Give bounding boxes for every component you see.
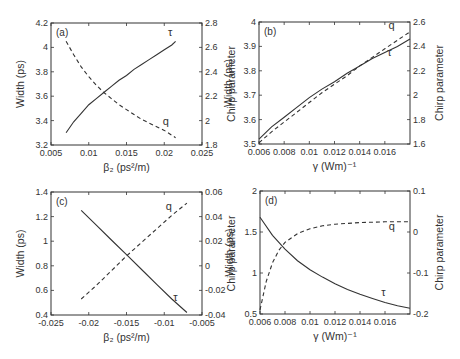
curve-label-tau: τ bbox=[168, 26, 173, 38]
y2-tick-label: 2.4 bbox=[205, 67, 218, 77]
x-tick-label: -0.015 bbox=[114, 318, 140, 328]
y-tick-label: 4 bbox=[43, 42, 48, 52]
y2-tick-label: 2.2 bbox=[205, 91, 218, 101]
y-tick-label: 1.4 bbox=[35, 187, 48, 197]
y-axis-label: Width (ps) bbox=[223, 229, 235, 277]
curve-label-q: q bbox=[389, 220, 395, 232]
axes-frame bbox=[259, 22, 410, 144]
x-tick-label: -0.02 bbox=[78, 318, 99, 328]
y-axis-label: Width (ps) bbox=[14, 230, 26, 278]
y2-tick-label: -0.2 bbox=[413, 309, 429, 319]
chirp-curve-q bbox=[66, 41, 176, 137]
y-tick-label: 3.8 bbox=[35, 67, 48, 77]
figure: 0.0050.010.0150.020.0253.23.43.63.844.21… bbox=[0, 0, 460, 359]
y-tick-label: 3.9 bbox=[243, 41, 256, 51]
y-tick-label: 3.7 bbox=[243, 90, 256, 100]
x-tick-label: 0.008 bbox=[274, 317, 297, 327]
x-tick-label: 0.012 bbox=[324, 317, 347, 327]
y-tick-label: 3.6 bbox=[243, 115, 256, 125]
chart-panel-c: -0.025-0.02-0.015-0.01-0.0050.40.60.811.… bbox=[14, 187, 237, 343]
x-tick-label: 0.015 bbox=[115, 148, 138, 158]
y2-tick-label: 2.4 bbox=[413, 41, 426, 51]
y2-tick-label: 1.8 bbox=[413, 115, 426, 125]
x-axis-label: β₂ (ps²/m) bbox=[103, 331, 149, 343]
x-tick-label: 0.012 bbox=[323, 147, 346, 157]
x-axis-label: γ (Wm)⁻¹ bbox=[313, 330, 357, 342]
chart-panel-d: 0.0060.0080.010.0120.0140.0160.511.52-0.… bbox=[223, 186, 445, 342]
y-tick-label: 1 bbox=[252, 268, 257, 278]
y2-axis-label: Chirp parameter bbox=[433, 45, 445, 121]
panel-label: (d) bbox=[265, 195, 277, 206]
x-tick-label: 0.01 bbox=[301, 317, 319, 327]
y2-tick-label: -0.04 bbox=[205, 310, 226, 320]
panel-label: (c) bbox=[56, 196, 68, 207]
y-axis-label: Width (ps) bbox=[14, 60, 26, 108]
y2-tick-label: -0.02 bbox=[205, 285, 226, 295]
curve-label-tau: τ bbox=[381, 286, 386, 298]
x-tick-label: 0.008 bbox=[273, 147, 296, 157]
x-tick-label: 0.016 bbox=[374, 147, 397, 157]
y2-tick-label: 2 bbox=[205, 116, 210, 126]
y-tick-label: 3.6 bbox=[35, 91, 48, 101]
y-tick-label: 3.4 bbox=[35, 116, 48, 126]
axes-frame bbox=[51, 192, 202, 315]
width-curve-tau bbox=[66, 41, 176, 133]
curve-label-tau: τ bbox=[387, 46, 392, 58]
panel-label: (b) bbox=[264, 26, 276, 37]
y-tick-label: 0.6 bbox=[35, 285, 48, 295]
y2-tick-label: 0 bbox=[413, 227, 418, 237]
y2-tick-label: 2.2 bbox=[413, 66, 426, 76]
y2-tick-label: 0.02 bbox=[205, 236, 223, 246]
x-axis-label: γ (Wm)⁻¹ bbox=[313, 160, 357, 172]
y2-tick-label: 2 bbox=[413, 90, 418, 100]
y-tick-label: 4 bbox=[251, 17, 256, 27]
y2-tick-label: 0 bbox=[205, 261, 210, 271]
curve-label-q: q bbox=[163, 115, 169, 127]
y2-axis-label: Chirp parameter bbox=[433, 214, 445, 290]
y2-tick-label: 0.06 bbox=[205, 187, 223, 197]
y-tick-label: 2 bbox=[252, 186, 257, 196]
y-tick-label: 1.5 bbox=[244, 227, 257, 237]
chirp-curve-q bbox=[260, 222, 410, 310]
chart-panel-a: 0.0050.010.0150.020.0253.23.43.63.844.21… bbox=[14, 18, 237, 173]
y-tick-label: 3.2 bbox=[35, 140, 48, 150]
x-tick-label: 0.01 bbox=[301, 147, 319, 157]
y2-tick-label: 2.6 bbox=[205, 42, 218, 52]
chirp-curve-q bbox=[81, 203, 187, 299]
curve-label-q: q bbox=[166, 200, 172, 212]
width-curve-tau bbox=[260, 217, 410, 308]
y-tick-label: 3.5 bbox=[243, 139, 256, 149]
x-tick-label: 0.016 bbox=[374, 317, 397, 327]
x-tick-label: 0.01 bbox=[80, 148, 98, 158]
curve-label-q: q bbox=[389, 19, 395, 31]
y2-tick-label: 0.04 bbox=[205, 212, 223, 222]
figure-canvas: 0.0050.010.0150.020.0253.23.43.63.844.21… bbox=[0, 0, 460, 359]
y-tick-label: 0.8 bbox=[35, 261, 48, 271]
x-axis-label: β₂ (ps²/m) bbox=[103, 161, 149, 173]
y-axis-label: Width (ps) bbox=[222, 59, 234, 107]
x-tick-label: 0.02 bbox=[155, 148, 173, 158]
y-tick-label: 1 bbox=[43, 236, 48, 246]
chart-panel-b: 0.0060.0080.010.0120.0140.0163.53.63.73.… bbox=[222, 17, 445, 172]
y-tick-label: 0.4 bbox=[35, 310, 48, 320]
x-tick-label: 0.014 bbox=[349, 317, 372, 327]
x-tick-label: -0.01 bbox=[154, 318, 175, 328]
y-tick-label: 0.5 bbox=[244, 309, 257, 319]
curve-label-tau: τ bbox=[173, 291, 178, 303]
y-tick-label: 1.2 bbox=[35, 212, 48, 222]
x-tick-label: 0.014 bbox=[348, 147, 371, 157]
y2-tick-label: 2.8 bbox=[205, 18, 218, 28]
axes-frame bbox=[260, 191, 410, 314]
y-tick-label: 3.8 bbox=[243, 66, 256, 76]
y2-tick-label: 1.8 bbox=[205, 140, 218, 150]
y-tick-label: 4.2 bbox=[35, 18, 48, 28]
y2-tick-label: -0.1 bbox=[413, 268, 429, 278]
y2-tick-label: 1.6 bbox=[413, 139, 426, 149]
width-curve-tau bbox=[81, 210, 187, 312]
y2-tick-label: 0.1 bbox=[413, 186, 426, 196]
panel-label: (a) bbox=[56, 27, 68, 38]
axes-frame bbox=[51, 23, 202, 145]
y2-tick-label: 2.6 bbox=[413, 17, 426, 27]
